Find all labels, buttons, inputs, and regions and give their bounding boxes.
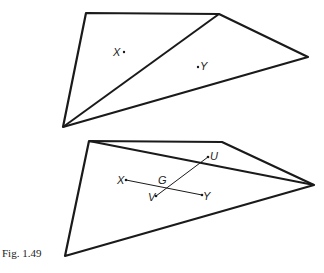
bottom-quadrilateral (65, 141, 314, 256)
label-g: G (158, 174, 167, 186)
point-y-top (197, 66, 199, 68)
figure-canvas: X Y X Y U V G Fig. 1.49 (0, 0, 324, 273)
label-y-bottom: Y (203, 190, 211, 202)
label-x-bottom: X (116, 174, 125, 186)
figure-caption: Fig. 1.49 (2, 247, 41, 259)
label-x-top: X (112, 46, 121, 58)
point-x-bottom (125, 179, 128, 182)
top-quadrilateral (63, 13, 308, 127)
point-x-top (123, 51, 125, 53)
label-u: U (210, 150, 218, 162)
label-y-top: Y (200, 60, 208, 72)
diagram: X Y X Y U V G (0, 0, 324, 273)
point-u (207, 156, 210, 159)
